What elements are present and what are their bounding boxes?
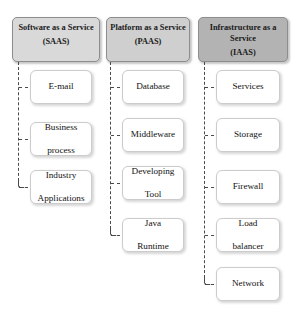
item-label-business-process-line1: Business bbox=[43, 122, 80, 133]
item-label-database: Database bbox=[134, 81, 172, 92]
cloud-service-models-diagram: Software as a Service (SAAS) E-mail Busi… bbox=[0, 0, 296, 319]
item-label-middleware: Middleware bbox=[129, 129, 177, 140]
header-abbr-saas: (SAAS) bbox=[13, 36, 99, 47]
connector-stub-paas-1 bbox=[111, 87, 120, 88]
item-box-load-balancer: Load balancer bbox=[216, 218, 280, 252]
item-box-business-process: Business process bbox=[30, 122, 92, 156]
header-box-paas: Platform as a Service (PAAS) bbox=[106, 17, 190, 62]
connector-bus-iaas bbox=[204, 62, 205, 283]
item-label-industry-applications-line1: Industry bbox=[36, 170, 87, 181]
item-box-developing-tool: Developing Tool bbox=[122, 166, 184, 200]
item-box-database: Database bbox=[122, 70, 184, 104]
header-line2-saas: Service bbox=[68, 23, 94, 32]
header-box-iaas: Infrastructure as a Service (IAAS) bbox=[198, 17, 288, 62]
item-box-firewall: Firewall bbox=[216, 170, 280, 204]
item-label-firewall: Firewall bbox=[231, 181, 266, 192]
column-saas: Software as a Service (SAAS) E-mail Busi… bbox=[10, 0, 102, 319]
item-label-java-runtime-line1: Java bbox=[135, 218, 171, 229]
connector-stub-iaas-3 bbox=[205, 187, 214, 188]
connector-stub-iaas-2 bbox=[205, 135, 214, 136]
connector-stub-paas-2 bbox=[111, 135, 120, 136]
connector-stub-paas-3 bbox=[111, 183, 120, 184]
connector-stub-saas-3 bbox=[19, 187, 28, 188]
item-label-load-balancer-line2: balancer bbox=[230, 241, 265, 252]
item-box-industry-applications: Industry Applications bbox=[30, 170, 92, 204]
item-box-services: Services bbox=[216, 70, 280, 104]
item-label-industry-applications-line2: Applications bbox=[36, 193, 87, 204]
header-abbr-iaas: (IAAS) bbox=[199, 47, 287, 58]
header-line1-saas: Software as a bbox=[18, 23, 65, 32]
item-label-developing-tool-line1: Developing bbox=[130, 166, 177, 177]
item-label-network: Network bbox=[230, 278, 266, 289]
header-line1-iaas: Infrastructure as bbox=[210, 23, 270, 32]
column-paas: Platform as a Service (PAAS) Database Mi… bbox=[104, 0, 194, 319]
item-label-load-balancer-line1: Load bbox=[230, 218, 265, 229]
item-box-storage: Storage bbox=[216, 118, 280, 152]
header-line1-paas: Platform as a bbox=[110, 23, 157, 32]
item-label-services: Services bbox=[230, 81, 265, 92]
connector-stub-saas-1 bbox=[19, 87, 28, 88]
item-label-email: E-mail bbox=[46, 81, 75, 92]
item-box-middleware: Middleware bbox=[122, 118, 184, 152]
header-box-saas: Software as a Service (SAAS) bbox=[12, 17, 100, 62]
item-box-network: Network bbox=[216, 267, 280, 301]
item-label-storage: Storage bbox=[232, 129, 264, 140]
item-box-email: E-mail bbox=[30, 70, 92, 104]
connector-stub-iaas-5 bbox=[205, 284, 214, 285]
header-abbr-paas: (PAAS) bbox=[107, 36, 189, 47]
item-box-java-runtime: Java Runtime bbox=[122, 218, 184, 252]
header-line2-paas: Service bbox=[160, 23, 186, 32]
item-label-business-process-line2: process bbox=[43, 145, 80, 156]
item-label-java-runtime-line2: Runtime bbox=[135, 241, 171, 252]
connector-stub-iaas-1 bbox=[205, 87, 214, 88]
item-label-developing-tool-line2: Tool bbox=[130, 189, 177, 200]
connector-stub-paas-4 bbox=[111, 235, 120, 236]
column-iaas: Infrastructure as a Service (IAAS) Servi… bbox=[196, 0, 292, 319]
connector-bus-saas bbox=[18, 62, 19, 186]
connector-stub-iaas-4 bbox=[205, 235, 214, 236]
connector-stub-saas-2 bbox=[19, 139, 28, 140]
